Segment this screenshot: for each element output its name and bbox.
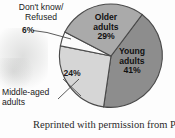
pie-chart: Don't know/ Refused 6% Older adults 29% … [0,0,175,116]
slice-label-line2: Refused [25,12,57,22]
slice-percent-older-adults: 29% [84,32,128,42]
slice-label-young-adults: Young adults 41% [110,47,154,76]
slice-percent-middle-aged-adults: 24% [55,69,89,79]
slice-label-line2: adults [2,97,25,107]
slice-label-line1: Don't know/ [19,2,64,12]
slice-label-line1: Young [119,46,145,56]
slice-label-line1: Middle-aged [2,87,49,97]
slice-percent-young-adults: 41% [110,66,154,76]
slice-label-line2: adults [119,56,144,66]
slice-label-line2: adults [93,22,118,32]
slice-percent-dont-know-refused: 6% [22,26,34,35]
figure-caption: Reprinted with permission from P [33,119,175,130]
slice-label-dont-know-refused: Don't know/ Refused [4,3,78,22]
slice-label-older-adults: Older adults 29% [84,13,128,42]
figure-canvas: Don't know/ Refused 6% Older adults 29% … [0,0,175,138]
slice-label-middle-aged-adults: Middle-aged adults [2,88,68,107]
slice-label-line1: Older [95,12,117,22]
